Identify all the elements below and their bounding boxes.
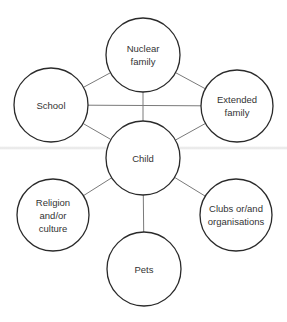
label-line: organisations: [200, 215, 272, 228]
node-label-pets: Pets: [108, 263, 180, 276]
connector-school-extended: [88, 105, 201, 106]
node-label-nuclear-family: Nuclear family: [107, 42, 179, 68]
label-line: family: [201, 106, 273, 119]
label-line: and/or: [17, 209, 89, 222]
label-line: family: [107, 55, 179, 68]
connector-school-nuclear: [84, 73, 111, 88]
connector-child-clubs: [175, 177, 206, 196]
label-line: School: [15, 99, 87, 112]
connector-nuclear-extended: [176, 73, 206, 89]
label-line: Nuclear: [107, 42, 179, 55]
connector-school-child: [83, 124, 111, 140]
node-label-extended-family: Extended family: [201, 93, 273, 119]
label-line: culture: [17, 222, 89, 235]
connector-child-religion: [83, 178, 111, 196]
node-label-clubs-organisations: Clubs or/and organisations: [200, 202, 272, 228]
label-line: Religion: [17, 196, 89, 209]
connector-extended-child: [175, 123, 205, 140]
label-line: Clubs or/and: [200, 202, 272, 215]
label-line: Pets: [108, 263, 180, 276]
label-line: Extended: [201, 93, 273, 106]
node-label-child: Child: [107, 152, 179, 165]
node-label-school: School: [15, 99, 87, 112]
node-label-religion-culture: Religion and/or culture: [17, 196, 89, 235]
label-line: Child: [107, 152, 179, 165]
